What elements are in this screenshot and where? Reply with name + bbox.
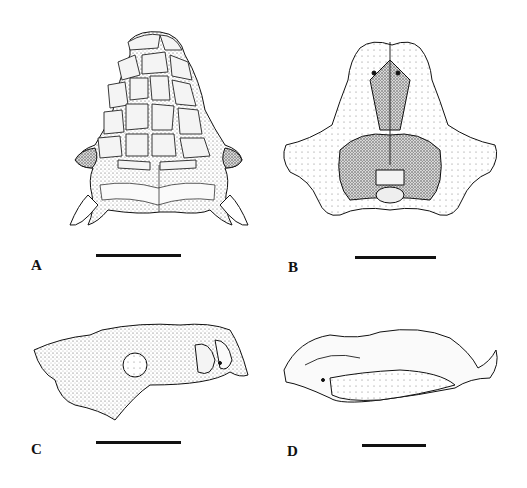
skull-illustrations — [0, 0, 527, 488]
panel-d-mandible — [284, 330, 497, 403]
panel-label-b: B — [288, 260, 298, 275]
panel-a-skull-dorsal — [70, 32, 248, 226]
figure-plate: A B C D — [0, 0, 527, 488]
panel-c-skull-lateral — [34, 324, 248, 420]
panel-b-skull-ventral — [284, 42, 497, 215]
scale-bar-a — [96, 254, 181, 257]
scale-bar-d — [362, 444, 426, 447]
scale-bar-c — [96, 441, 181, 444]
panel-label-d: D — [287, 444, 298, 459]
scale-bar-b — [355, 256, 436, 259]
panel-label-a: A — [31, 258, 42, 273]
panel-label-c: C — [31, 442, 42, 457]
